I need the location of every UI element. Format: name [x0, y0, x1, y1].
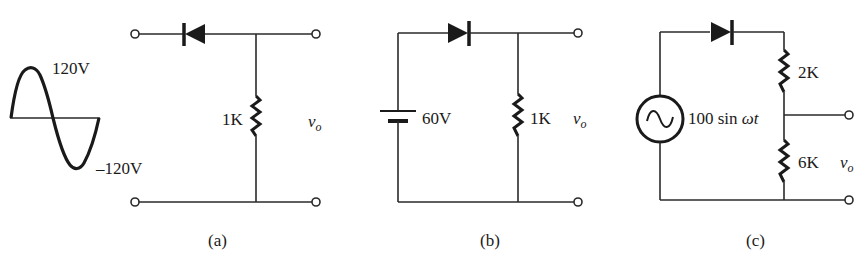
output-terminal-bottom [312, 198, 320, 206]
resistor-1k-icon [514, 94, 522, 136]
input-terminal-bottom [131, 198, 139, 206]
output-voltage-label: vo [573, 110, 587, 130]
output-voltage-label: vo [308, 113, 322, 133]
input-terminal-top [131, 30, 139, 38]
panel-caption-b: (b) [480, 232, 500, 249]
output-terminal-bottom [574, 198, 582, 206]
resistor-label-6k: 6K [798, 154, 819, 171]
diode-icon [448, 23, 468, 43]
resistor-1k-icon [252, 96, 260, 136]
diode-icon [185, 24, 205, 44]
panel-caption-c: (c) [746, 232, 765, 249]
resistor-2k-icon [780, 50, 788, 92]
ac-source-label: 100 sin ωt [688, 110, 759, 127]
resistor-6k-icon [780, 140, 788, 182]
resistor-label-1k: 1K [222, 111, 243, 128]
battery-label-60v: 60V [422, 110, 451, 127]
waveform-peak-label: 120V [52, 60, 90, 77]
output-terminal-top [312, 30, 320, 38]
output-terminal-bottom [845, 196, 853, 204]
diode-icon [711, 22, 731, 42]
panel-a-circuit [10, 23, 320, 206]
resistor-label-2k: 2K [798, 64, 819, 81]
panel-b-circuit [380, 21, 582, 206]
output-voltage-label: vo [840, 154, 854, 174]
waveform-trough-label: –120V [96, 160, 142, 177]
output-terminal-top [574, 29, 582, 37]
output-terminal-top [845, 111, 853, 119]
resistor-label-1k: 1K [530, 110, 551, 127]
circuit-figure [0, 0, 860, 262]
panel-caption-a: (a) [208, 232, 227, 249]
